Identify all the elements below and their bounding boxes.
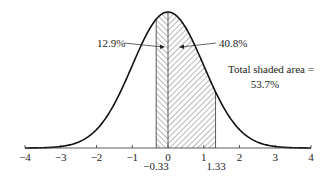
right-area-label: 40.8% — [219, 37, 247, 49]
x-tick-label: −4 — [19, 151, 31, 163]
x-tick-label: −3 — [55, 151, 67, 163]
x-tick-label: 2 — [237, 151, 243, 163]
x-tick-label: 4 — [308, 151, 314, 163]
shaded-region-right — [168, 12, 216, 148]
total-area-label-line2: 53.7% — [251, 78, 279, 90]
left-area-label: 12.9% — [97, 37, 125, 49]
total-area-label-line1: Total shaded area = — [228, 63, 314, 75]
shaded-region-left — [156, 12, 168, 148]
x-tick-label: 3 — [273, 151, 279, 163]
boundary-label-right: 1.33 — [206, 160, 226, 172]
x-tick-label: −2 — [91, 151, 103, 163]
normal-distribution-chart: −4−3−2−101234 −0.33 1.33 12.9% 40.8% Tot… — [0, 0, 323, 184]
x-tick-label: −1 — [126, 151, 138, 163]
boundary-label-left: −0.33 — [143, 160, 169, 172]
